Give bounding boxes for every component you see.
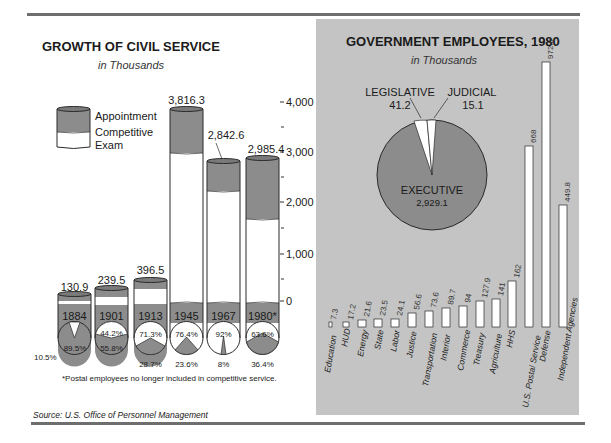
y-tick-0: 0 [286, 295, 292, 307]
appointment-pct-1901: 55.8% [100, 344, 123, 353]
bar-energy [358, 320, 366, 327]
total-1980: 2,985.4 [248, 143, 285, 155]
legend-competitive-label-line2: Exam [95, 139, 123, 151]
cylinder-1967: 2,842.6 1967 92% 8% [207, 129, 244, 369]
pie-label-legislative: LEGISLATIVE [365, 86, 435, 98]
total-1945: 3,816.3 [168, 94, 205, 106]
cylinder-1945: 3,816.3 1945 76.4% 23.6% [168, 94, 205, 369]
footnote: *Postal employees no longer included in … [62, 374, 277, 383]
total-1967: 2,842.6 [208, 129, 245, 141]
year-1884: 1884 [62, 310, 86, 322]
bottom-rule [31, 422, 585, 425]
left-chart-subtitle: in Thousands [98, 59, 165, 71]
bar-agriculture [492, 299, 500, 327]
pie-value-judicial: 15.1 [462, 99, 483, 111]
legend-competitive-label-line1: Competitive [95, 126, 153, 138]
y-tick-3000: 3,000 [286, 146, 314, 158]
total-1901: 239.5 [98, 274, 126, 286]
pie-value-legislative: 41.2 [389, 99, 410, 111]
y-tick-1000: 1,000 [286, 248, 314, 260]
bar-transportation [425, 311, 433, 327]
competitive-pct-1901: 44.2% [100, 329, 123, 338]
competitive-pct-1913: 71.3% [139, 330, 162, 339]
bar-us-postal-service [525, 146, 533, 327]
pie-value-executive: 2,929.1 [416, 197, 448, 208]
competitive-pct-1967: 92% [215, 330, 231, 339]
left-chart-title: GROWTH OF CIVIL SERVICE [42, 39, 220, 54]
appointment-pct-1967: 8% [218, 360, 230, 369]
cylinder-1901: 239.5 1901 44.2% 55.8% [95, 274, 128, 367]
cylinder-1884: 130.9 1884 89.5% 10.5% [34, 281, 91, 367]
year-1901: 1901 [99, 310, 123, 322]
appointment-pct-1884: 89.5% [64, 344, 87, 353]
cylinder-1980: 2,985.4 1980* 63.6% 36.4% [246, 143, 284, 369]
year-1967: 1967 [211, 310, 235, 322]
total-1913: 396.5 [137, 264, 165, 276]
competitive-pct-1884: 10.5% [34, 353, 57, 362]
infographic: GROWTH OF CIVIL SERVICE in Thousands App… [0, 0, 611, 443]
top-rule [27, 13, 580, 16]
appointment-pct-1913: 28.7% [139, 360, 162, 369]
pie-label-judicial: JUDICIAL [448, 86, 497, 98]
year-1913: 1913 [138, 310, 162, 322]
legend: Appointment Competitive Exam [57, 107, 157, 152]
pie-label-executive: EXECUTIVE [401, 184, 463, 196]
cylinder-1913: 396.5 1913 71.3% 28.7% [134, 264, 167, 369]
right-chart-subtitle: in Thousands [411, 54, 478, 66]
y-tick-2000: 2,000 [286, 196, 314, 208]
year-1980: 1980* [248, 310, 277, 322]
value-defense: 972.8 [546, 38, 555, 59]
appointment-pct-1980: 36.4% [251, 360, 274, 369]
bar-independent-agencies [559, 205, 567, 327]
bar-labor [391, 319, 399, 327]
bar-defense [542, 62, 550, 327]
source-note: Source: U.S. Office of Personnel Managem… [33, 410, 208, 420]
value-independent-agencies: 449.8 [563, 181, 572, 202]
value-us-postal-service: 668 [529, 129, 538, 143]
bar-justice [408, 313, 416, 327]
bar-hhs [508, 281, 516, 327]
competitive-pct-1945: 76.4% [175, 330, 198, 339]
appointment-pct-1945: 23.6% [175, 360, 198, 369]
bar-treasury [476, 301, 484, 327]
bar-hud [343, 322, 349, 327]
y-tick-4000: 4,000 [286, 96, 314, 108]
year-1945: 1945 [174, 310, 198, 322]
total-1884: 130.9 [61, 281, 89, 293]
bar-commerce [459, 306, 467, 327]
right-chart-title: GOVERNMENT EMPLOYEES, 1980 [346, 34, 560, 49]
bar-state [374, 319, 382, 327]
bar-education [329, 322, 332, 327]
legend-cylinder-icon [57, 107, 90, 149]
bar-interior [442, 308, 450, 327]
legend-appointment-label: Appointment [95, 110, 157, 122]
left-y-axis: 4,000 3,000 2,000 1,000 0 [280, 96, 314, 307]
competitive-pct-1980: 63.6% [251, 330, 274, 339]
